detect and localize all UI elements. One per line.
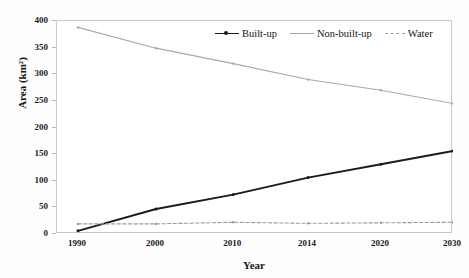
x-tick-label: 2014 bbox=[284, 238, 330, 248]
data-point bbox=[232, 62, 234, 64]
y-axis-title: Area (km²) bbox=[16, 23, 28, 143]
legend-line-water-icon bbox=[385, 30, 405, 38]
chart-legend: Built-up Non-built-up Water bbox=[215, 28, 433, 39]
data-point bbox=[77, 26, 79, 28]
y-tick-label: 100 bbox=[18, 175, 48, 185]
data-point bbox=[380, 89, 382, 91]
series-canvas bbox=[57, 21, 453, 234]
x-tick-label: 1990 bbox=[54, 238, 100, 248]
plot-area bbox=[56, 20, 452, 233]
data-point bbox=[155, 207, 158, 210]
legend-item-built-up: Built-up bbox=[215, 28, 277, 39]
legend-line-non-built-up-icon bbox=[290, 30, 314, 38]
data-point bbox=[307, 222, 309, 224]
y-tick-mark bbox=[52, 233, 56, 234]
series-line-water bbox=[78, 222, 453, 224]
legend-item-non-built-up: Non-built-up bbox=[290, 28, 372, 39]
x-tick-label: 2030 bbox=[429, 238, 469, 248]
y-tick-label: 50 bbox=[18, 201, 48, 211]
data-point bbox=[232, 221, 234, 223]
data-point bbox=[380, 222, 382, 224]
y-tick-label: 0 bbox=[18, 228, 48, 238]
legend-label-non-built-up: Non-built-up bbox=[317, 28, 372, 39]
data-point bbox=[307, 176, 310, 179]
chart-figure: Area (km²) 050100150200250300350400 1990… bbox=[0, 0, 469, 278]
data-point bbox=[76, 229, 79, 232]
data-point bbox=[307, 78, 309, 80]
data-point bbox=[379, 163, 382, 166]
data-point bbox=[155, 223, 157, 225]
y-tick-label: 150 bbox=[18, 148, 48, 158]
x-tick-label: 2010 bbox=[209, 238, 255, 248]
data-point bbox=[232, 193, 235, 196]
data-point bbox=[77, 223, 79, 225]
legend-label-water: Water bbox=[408, 28, 433, 39]
data-point bbox=[155, 47, 157, 49]
x-axis-title: Year bbox=[56, 259, 452, 271]
x-tick-label: 2000 bbox=[132, 238, 178, 248]
legend-item-water: Water bbox=[385, 28, 433, 39]
legend-line-built-up-icon bbox=[215, 30, 239, 38]
x-tick-label: 2020 bbox=[357, 238, 403, 248]
legend-label-built-up: Built-up bbox=[242, 28, 277, 39]
data-point bbox=[452, 221, 453, 223]
series-line-built-up bbox=[78, 151, 453, 231]
data-point bbox=[452, 102, 453, 104]
